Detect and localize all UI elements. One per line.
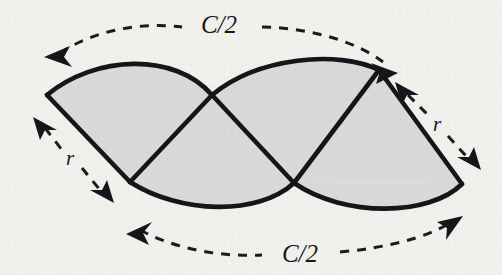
circle-sector-diagram: C/2 C/2 r r bbox=[0, 0, 502, 275]
arrowhead-top-left bbox=[44, 46, 72, 67]
left-radius-label: r bbox=[66, 146, 75, 170]
left-radius-measure-lower bbox=[82, 168, 100, 190]
right-radius-measure-lower bbox=[448, 136, 466, 156]
bottom-measure-arc-left bbox=[140, 230, 262, 255]
right-radius-label: r bbox=[433, 112, 442, 136]
sector-group bbox=[47, 59, 462, 209]
top-arc-label: C/2 bbox=[201, 11, 237, 38]
bottom-arc-label: C/2 bbox=[282, 240, 318, 267]
bottom-measure-arc-right bbox=[340, 224, 448, 252]
left-radius-measure-upper bbox=[45, 128, 62, 150]
top-measure-arc-right bbox=[262, 27, 383, 62]
top-measure-arc-left bbox=[60, 26, 182, 53]
arrowhead-left-radius-top bbox=[33, 117, 57, 140]
figure-root: C/2 C/2 r r bbox=[0, 0, 502, 275]
